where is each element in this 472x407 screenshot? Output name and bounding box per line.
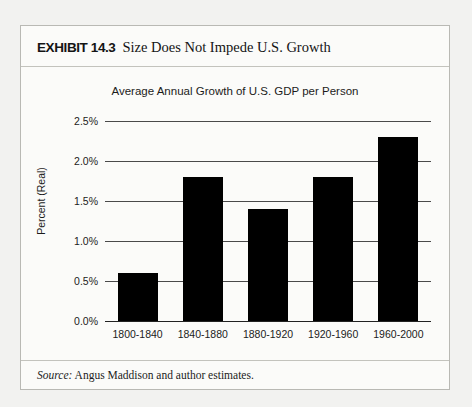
bar xyxy=(378,137,418,321)
exhibit-title: EXHIBIT 14.3Size Does Not Impede U.S. Gr… xyxy=(37,38,331,56)
exhibit-caption-text: Size Does Not Impede U.S. Growth xyxy=(122,39,330,55)
y-tick-label: 2.5% xyxy=(74,115,98,127)
chart-container: Average Annual Growth of U.S. GDP per Pe… xyxy=(21,67,449,355)
x-tick-label: 1840-1880 xyxy=(178,328,228,340)
x-tick-label: 1800-1840 xyxy=(112,328,162,340)
x-tick-label: 1960-2000 xyxy=(373,328,423,340)
bar xyxy=(248,209,288,321)
exhibit-header: EXHIBIT 14.3Size Does Not Impede U.S. Gr… xyxy=(21,26,449,66)
source-text: Angus Maddison and author estimates. xyxy=(75,369,254,381)
bar-group: 1880-1920 xyxy=(235,121,300,321)
bar-group: 1920-1960 xyxy=(301,121,366,321)
exhibit-panel: EXHIBIT 14.3Size Does Not Impede U.S. Gr… xyxy=(20,25,450,390)
bar xyxy=(183,177,223,321)
y-tick-label: 2.0% xyxy=(74,155,98,167)
bar-group: 1800-1840 xyxy=(105,121,170,321)
footer-divider xyxy=(21,360,449,361)
exhibit-number-label: EXHIBIT 14.3 xyxy=(37,40,115,55)
x-tick-label: 1880-1920 xyxy=(243,328,293,340)
bar-series: 1800-18401840-18801880-19201920-19601960… xyxy=(105,121,431,321)
bar-group: 1960-2000 xyxy=(366,121,431,321)
x-tick-label: 1920-1960 xyxy=(308,328,358,340)
y-tick-label: 1.5% xyxy=(74,195,98,207)
bar-group: 1840-1880 xyxy=(170,121,235,321)
chart-title: Average Annual Growth of U.S. GDP per Pe… xyxy=(21,85,449,97)
plot-area: 0.0%0.5%1.0%1.5%2.0%2.5% 1800-18401840-1… xyxy=(105,121,431,321)
bar xyxy=(118,273,158,321)
y-tick-label: 1.0% xyxy=(74,235,98,247)
source-note: Source: Angus Maddison and author estima… xyxy=(37,369,254,381)
source-label: Source: xyxy=(37,369,72,381)
y-axis-title: Percent (Real) xyxy=(35,131,47,271)
y-tick-label: 0.0% xyxy=(74,315,98,327)
y-tick-label: 0.5% xyxy=(74,275,98,287)
bar xyxy=(313,177,353,321)
